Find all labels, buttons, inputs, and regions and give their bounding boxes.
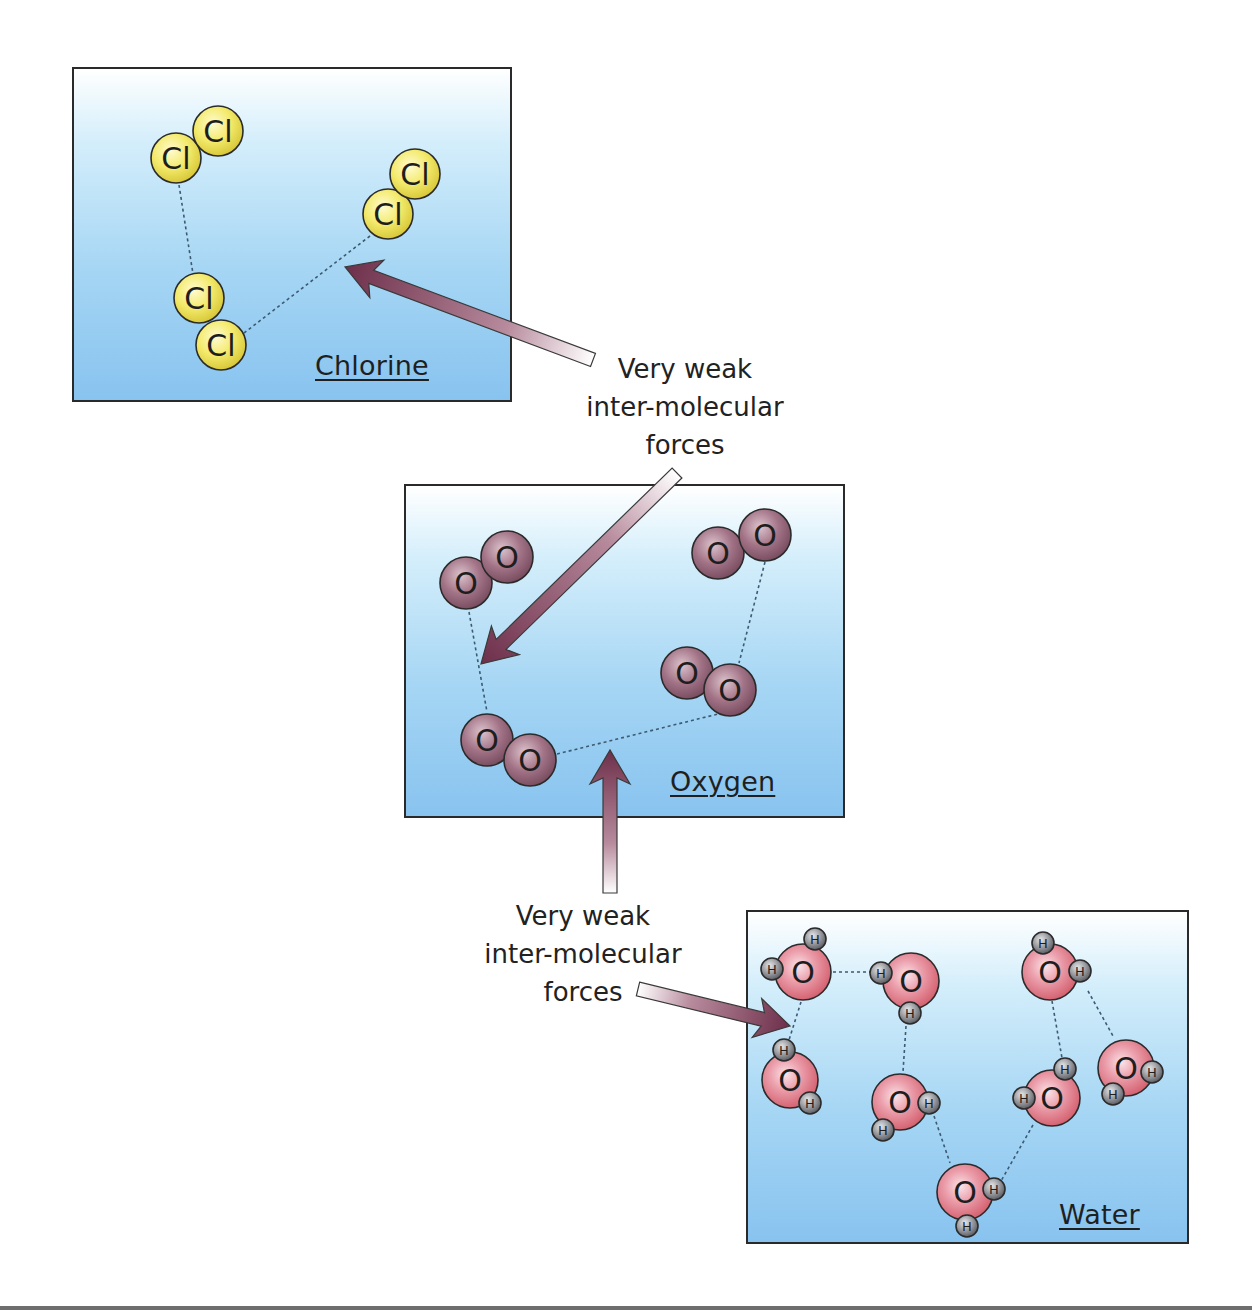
chlorine-atom-icon: Cl [193,106,243,156]
svg-text:H: H [1038,936,1048,951]
svg-text:H: H [905,1006,915,1021]
svg-text:H: H [767,962,777,977]
svg-text:H: H [1060,1062,1070,1077]
oxygen-atom-icon: O [481,531,533,583]
svg-text:Cl: Cl [206,328,235,363]
chlorine-atom-icon: Cl [196,320,246,370]
intermolecular-force-line [934,1116,950,1163]
svg-text:H: H [1075,964,1085,979]
oxygen-atom-icon: O [704,664,756,716]
svg-text:O: O [953,1175,977,1210]
chlorine-atom-icon: Cl [174,273,224,323]
intermolecular-force-line [244,236,370,333]
svg-text:O: O [495,540,519,575]
intermolecular-force-line [903,1026,906,1072]
svg-text:H: H [924,1096,934,1111]
hydrogen-atom-icon: H [761,958,783,980]
intermolecular-force-line [1001,1125,1033,1181]
callout-top-text: Very weak inter-molecular forces [560,350,810,464]
dashed-bonds [179,185,1113,1181]
svg-text:O: O [675,656,699,691]
callout-line: inter-molecular [458,935,708,973]
callout-bottom-text: Very weak inter-molecular forces [458,897,708,1011]
chlorine-atom-icon: Cl [151,133,201,183]
callout-line: forces [458,973,708,1011]
svg-text:O: O [778,1063,802,1098]
svg-text:H: H [1147,1065,1157,1080]
svg-text:O: O [718,673,742,708]
svg-text:H: H [878,1123,888,1138]
hydrogen-atom-icon: H [1013,1087,1035,1109]
oxygen-atom-icon: O [504,734,556,786]
hydrogen-atom-icon: H [1032,932,1054,954]
hydrogen-atom-icon: H [799,1092,821,1114]
svg-text:O: O [1040,1081,1064,1116]
svg-text:O: O [888,1085,912,1120]
svg-text:O: O [791,955,815,990]
svg-text:Cl: Cl [400,157,429,192]
hydrogen-atom-icon: H [872,1119,894,1141]
svg-text:H: H [779,1043,789,1058]
callout-line: inter-molecular [560,388,810,426]
hydrogen-atom-icon: H [870,962,892,984]
hydrogen-atom-icon: H [1069,960,1091,982]
intermolecular-force-line [739,562,765,663]
svg-text:Cl: Cl [161,141,190,176]
atoms: ClClClClClClOOOOOOOOOHHOHHOHHOHHOHHOHHOH… [151,106,1163,1237]
callout-line: forces [560,426,810,464]
svg-text:Cl: Cl [373,197,402,232]
svg-text:O: O [454,566,478,601]
svg-text:H: H [805,1096,815,1111]
oxygen-atom-icon: O [692,527,744,579]
hydrogen-atom-icon: H [804,928,826,950]
svg-text:H: H [1019,1091,1029,1106]
intermolecular-force-line [789,1002,801,1040]
svg-text:O: O [706,536,730,571]
hydrogen-atom-icon: H [1054,1058,1076,1080]
hydrogen-atom-icon: H [1102,1083,1124,1105]
hydrogen-atom-icon: H [956,1215,978,1237]
svg-text:H: H [810,932,820,947]
hydrogen-atom-icon: H [773,1039,795,1061]
svg-text:O: O [753,518,777,553]
intermolecular-force-line [1052,1001,1062,1058]
hydrogen-atom-icon: H [918,1092,940,1114]
molecules-overlay: ClClClClClClOOOOOOOOOHHOHHOHHOHHOHHOHHOH… [0,0,1252,1310]
callout-line: Very weak [560,350,810,388]
intermolecular-force-line [1088,991,1113,1036]
svg-text:H: H [1108,1087,1118,1102]
svg-text:O: O [1038,955,1062,990]
arrow-icon-to-oxygen-bottom [590,750,630,893]
intermolecular-force-line [179,185,193,274]
svg-text:Cl: Cl [184,281,213,316]
hydrogen-atom-icon: H [983,1178,1005,1200]
page-edge [0,1306,1252,1310]
svg-text:O: O [1114,1051,1138,1086]
hydrogen-atom-icon: H [1141,1061,1163,1083]
callout-line: Very weak [458,897,708,935]
svg-text:Cl: Cl [203,114,232,149]
svg-text:H: H [962,1219,972,1234]
diagram-canvas: Chlorine Oxygen Water [0,0,1252,1310]
water-oxygen-atom-icon: O [883,953,939,1009]
svg-text:H: H [989,1182,999,1197]
intermolecular-force-line [557,714,718,754]
svg-text:O: O [475,723,499,758]
svg-text:H: H [876,966,886,981]
chlorine-atom-icon: Cl [390,149,440,199]
svg-text:O: O [518,743,542,778]
svg-text:O: O [899,964,923,999]
oxygen-atom-icon: O [739,509,791,561]
hydrogen-atom-icon: H [899,1002,921,1024]
